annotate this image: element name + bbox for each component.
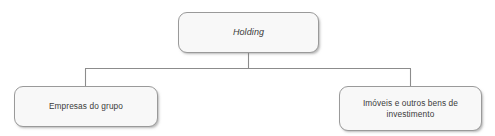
node-holding[interactable]: Holding: [178, 12, 319, 53]
node-imoveis-e-outros-bens-de-investimento[interactable]: Imóveis e outros bens de investimento: [339, 86, 482, 131]
org-chart-diagram: Holding Empresas do grupo Imóveis e outr…: [0, 0, 495, 136]
node-imoveis-e-outros-bens-de-investimento-label: Imóveis e outros bens de investimento: [357, 98, 464, 119]
node-holding-label: Holding: [227, 27, 270, 39]
node-empresas-do-grupo-label: Empresas do grupo: [43, 101, 129, 112]
node-empresas-do-grupo[interactable]: Empresas do grupo: [14, 86, 158, 127]
